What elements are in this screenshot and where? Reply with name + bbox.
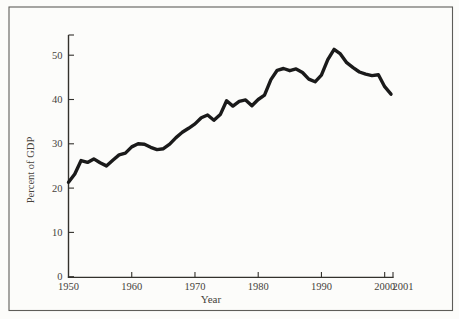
x-tick-label: 2001 — [393, 281, 414, 292]
x-tick-label: 1950 — [58, 281, 79, 292]
x-tick-label: 1990 — [311, 281, 332, 292]
y-tick-label: 10 — [52, 227, 63, 238]
y-tick-label: 50 — [52, 50, 63, 61]
figure-frame — [9, 7, 453, 311]
x-axis-title: Year — [201, 293, 222, 305]
x-tick-label: 1960 — [121, 281, 142, 292]
y-tick-label: 30 — [52, 138, 63, 149]
gdp-line-series — [69, 49, 392, 182]
y-tick-label: 20 — [52, 183, 63, 194]
x-tick-label: 1970 — [184, 281, 205, 292]
x-tick-label: 1980 — [248, 281, 269, 292]
line-chart: 010203040501960197019801990200019502001 … — [0, 0, 459, 319]
y-axis-title: Percent of GDP — [25, 137, 36, 204]
figure-page: 010203040501960197019801990200019502001 … — [0, 0, 459, 319]
y-tick-label: 40 — [52, 94, 63, 105]
